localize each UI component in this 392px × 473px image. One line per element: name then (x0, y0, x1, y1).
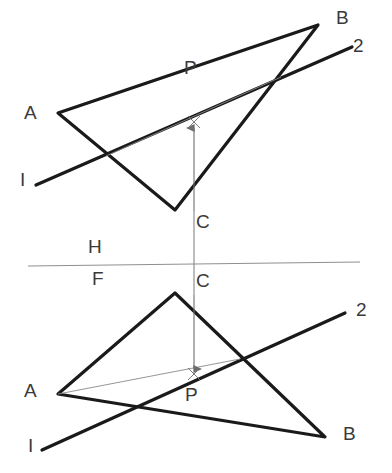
vertex-label-a-top: A (24, 103, 37, 122)
reference-label-f: F (92, 269, 104, 288)
front-view-group (42, 293, 345, 450)
vertex-label-c-top: C (196, 212, 210, 231)
vertex-label-b-top: B (336, 8, 349, 27)
piercing-point-label-p-front: P (185, 385, 198, 404)
line-end-label-2-front: 2 (356, 300, 367, 319)
vertex-label-b-front: B (343, 424, 356, 443)
reference-label-h: H (88, 237, 102, 256)
vertex-label-c-front: C (196, 271, 210, 290)
line-end-label-1-top: I (20, 170, 25, 189)
vertex-label-a-front: A (24, 381, 37, 400)
triangle-abc-front (58, 293, 325, 437)
piercing-point-marker-top (188, 116, 200, 128)
engineering-drawing-canvas: A B C P I 2 H F C A B P I 2 (0, 0, 392, 473)
reference-line-group (28, 211, 360, 295)
piercing-point-marker-front (188, 368, 200, 380)
line-end-label-2-top: 2 (353, 36, 364, 55)
piercing-point-label-p-top: P (184, 58, 197, 77)
line-end-label-1-front: I (28, 436, 33, 455)
cutting-plane-trace-front (58, 359, 240, 394)
top-view-group (36, 25, 352, 211)
